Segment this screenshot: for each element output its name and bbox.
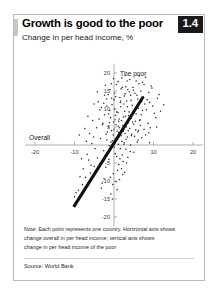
data-point	[120, 100, 122, 102]
data-point	[102, 124, 104, 126]
x-tick-label: -20	[31, 149, 39, 155]
data-point	[143, 128, 145, 130]
data-point	[163, 104, 165, 106]
data-point	[133, 151, 135, 153]
data-point	[125, 115, 127, 117]
x-tick-label: 10	[150, 149, 156, 155]
data-point	[120, 106, 122, 108]
data-point	[140, 114, 142, 116]
data-point	[136, 95, 138, 97]
data-point	[148, 92, 150, 94]
data-point	[135, 129, 137, 131]
data-point	[129, 151, 131, 153]
data-point	[94, 148, 96, 150]
data-point	[109, 89, 111, 91]
data-point	[110, 177, 112, 179]
data-point	[101, 107, 103, 109]
data-point	[114, 153, 116, 155]
data-point	[148, 132, 150, 134]
data-point	[103, 178, 105, 180]
data-point	[122, 154, 124, 156]
data-point	[118, 120, 120, 122]
data-point	[129, 79, 131, 81]
data-point	[124, 172, 126, 174]
data-point	[115, 181, 117, 183]
data-point	[124, 110, 126, 112]
data-point	[146, 99, 148, 101]
data-point	[133, 123, 135, 125]
data-point	[119, 158, 121, 160]
x-tick-label: 20	[190, 149, 196, 155]
data-point	[100, 138, 102, 140]
data-point	[138, 83, 140, 85]
data-point	[120, 148, 122, 150]
data-point	[116, 84, 118, 86]
data-point	[107, 94, 109, 96]
data-point	[98, 118, 100, 120]
data-point	[137, 141, 139, 143]
data-point	[140, 90, 142, 92]
y-tick-label: -15	[102, 196, 110, 202]
data-point	[150, 85, 152, 87]
data-point	[110, 141, 112, 143]
data-point	[142, 82, 144, 84]
data-point	[106, 98, 108, 100]
data-point	[127, 136, 129, 138]
data-point	[118, 144, 120, 146]
data-point	[102, 123, 104, 125]
data-point	[89, 133, 91, 135]
data-point	[155, 117, 157, 119]
data-point	[134, 136, 136, 138]
data-point	[108, 122, 110, 124]
data-point	[105, 167, 107, 169]
data-point	[112, 184, 114, 186]
data-point	[122, 87, 124, 89]
data-point	[150, 127, 152, 129]
y-tick-label: -5	[105, 160, 110, 166]
data-point	[133, 90, 135, 92]
data-point	[109, 110, 111, 112]
data-point	[113, 99, 115, 101]
data-point	[143, 84, 145, 86]
data-point	[130, 144, 132, 146]
data-point	[115, 96, 117, 98]
y-tick-label: 15	[104, 88, 110, 94]
data-point	[134, 92, 136, 94]
data-point	[113, 121, 115, 123]
data-point	[137, 131, 139, 133]
data-point	[103, 150, 105, 152]
y-axis-title: The poor	[120, 70, 147, 78]
data-point	[115, 124, 117, 126]
data-point	[112, 173, 114, 175]
data-point	[112, 134, 114, 136]
data-point	[114, 108, 116, 110]
data-point	[85, 177, 87, 179]
data-point	[114, 119, 116, 121]
data-point	[125, 138, 127, 140]
data-point	[79, 176, 81, 178]
data-point	[119, 179, 121, 181]
data-point	[119, 127, 121, 129]
data-point	[116, 189, 118, 191]
data-point	[144, 103, 146, 105]
data-point	[86, 141, 88, 143]
data-point	[82, 168, 84, 170]
data-point	[123, 116, 125, 118]
data-point	[147, 123, 149, 125]
data-point	[124, 93, 126, 95]
data-point	[123, 95, 125, 97]
data-point	[157, 97, 159, 99]
data-point	[121, 141, 123, 143]
data-point	[90, 172, 92, 174]
data-point	[87, 115, 89, 117]
data-point	[135, 80, 137, 82]
data-point	[142, 110, 144, 112]
data-point	[88, 159, 90, 161]
data-point	[152, 105, 154, 107]
data-point	[132, 87, 134, 89]
data-point	[86, 154, 88, 156]
data-point	[112, 140, 114, 142]
data-point	[103, 102, 105, 104]
y-tick-label: 20	[104, 70, 110, 76]
data-point	[131, 105, 133, 107]
